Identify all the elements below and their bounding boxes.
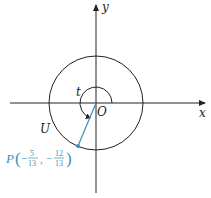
svg-text:): ) xyxy=(66,149,72,168)
svg-text:13: 13 xyxy=(28,159,36,168)
point-p xyxy=(76,144,80,148)
radius-segment-op xyxy=(78,103,96,146)
point-p-label: P ( − 5 13 , − 12 13 ) xyxy=(5,149,72,168)
svg-text:13: 13 xyxy=(55,159,63,168)
origin-label: O xyxy=(97,105,107,119)
circle-label-u: U xyxy=(40,122,51,136)
svg-text:−: − xyxy=(21,152,27,164)
unit-circle-diagram: y x O t U P ( − 5 13 , − 12 13 ) xyxy=(0,0,211,198)
svg-text:12: 12 xyxy=(55,149,63,158)
x-axis-label: x xyxy=(199,106,206,120)
svg-text:5: 5 xyxy=(30,149,34,158)
y-axis-label: y xyxy=(101,0,109,14)
svg-text:−: − xyxy=(46,152,52,164)
svg-text:P: P xyxy=(5,151,14,166)
svg-text:,: , xyxy=(40,153,43,165)
angle-label-t: t xyxy=(76,85,81,99)
